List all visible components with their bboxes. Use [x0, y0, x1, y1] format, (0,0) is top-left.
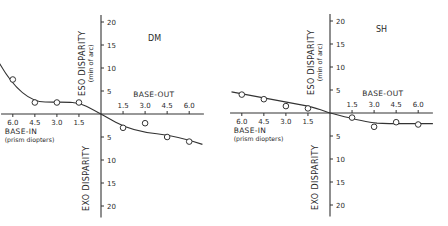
x-tick-label: 6.0 — [7, 119, 18, 127]
y-tick-label: 5 — [336, 133, 340, 141]
y-label-eso: ESO DISPARITY — [307, 30, 316, 95]
data-point — [186, 139, 192, 145]
y-label-units: (min of arc) — [87, 44, 95, 82]
y-tick-label: 10 — [336, 156, 345, 164]
data-point — [10, 77, 16, 83]
data-point — [415, 122, 421, 128]
data-point — [54, 100, 60, 106]
x-tick-label: 6.0 — [184, 102, 195, 110]
y-tick-label: 20 — [336, 18, 345, 26]
x-label-base-out: BASE-OUT — [133, 90, 174, 99]
x-tick-label: 6.0 — [413, 101, 424, 109]
x-tick-label: 3.0 — [280, 118, 291, 126]
y-tick-label: 15 — [107, 180, 116, 188]
chart-panel-sh: 510152051015206.04.53.01.51.53.04.56.0BA… — [230, 14, 433, 216]
y-tick-label: 15 — [336, 179, 345, 187]
prism-disparity-charts: 510152051015206.04.53.01.51.53.04.56.0BA… — [0, 0, 448, 226]
x-tick-label: 4.5 — [258, 118, 269, 126]
y-tick-label: 10 — [107, 65, 116, 73]
x-tick-label: 1.5 — [302, 118, 313, 126]
data-point — [164, 134, 170, 140]
y-tick-label: 15 — [107, 42, 116, 50]
y-tick-label: 20 — [336, 202, 345, 210]
x-label-base-in: BASE-IN — [5, 127, 37, 136]
x-tick-label: 1.5 — [117, 102, 128, 110]
panel-title: DM — [148, 34, 161, 43]
x-tick-label: 6.0 — [236, 118, 247, 126]
y-label-units: (min of arc) — [316, 43, 324, 81]
y-tick-label: 20 — [107, 203, 116, 211]
y-tick-label: 5 — [107, 88, 111, 96]
x-tick-label: 1.5 — [73, 119, 84, 127]
x-label-units: (prism diopters) — [5, 136, 55, 144]
x-tick-label: 3.0 — [140, 102, 151, 110]
y-tick-label: 20 — [107, 19, 116, 27]
y-tick-label: 5 — [107, 134, 111, 142]
y-label-exo: EXO DISPARITY — [82, 146, 91, 211]
data-point — [142, 120, 148, 126]
x-tick-label: 3.0 — [369, 101, 380, 109]
x-tick-label: 4.5 — [391, 101, 402, 109]
data-point — [283, 103, 289, 109]
x-tick-label: 4.5 — [162, 102, 173, 110]
data-point — [261, 96, 267, 102]
panel-title: SH — [376, 25, 387, 34]
y-tick-label: 10 — [107, 157, 116, 165]
x-tick-label: 1.5 — [346, 101, 357, 109]
x-label-base-in: BASE-IN — [234, 126, 266, 135]
data-point — [349, 115, 355, 121]
chart-panel-dm: 510152051015206.04.53.01.51.53.04.56.0BA… — [0, 15, 204, 217]
x-tick-label: 4.5 — [29, 119, 40, 127]
y-label-exo: EXO DISPARITY — [311, 145, 320, 210]
data-point — [120, 125, 126, 131]
data-point — [32, 100, 38, 106]
y-label-eso: ESO DISPARITY — [78, 31, 87, 96]
y-tick-label: 5 — [336, 87, 340, 95]
x-label-base-out: BASE-OUT — [362, 89, 403, 98]
data-point — [239, 92, 245, 98]
y-tick-label: 10 — [336, 64, 345, 72]
data-point — [393, 119, 399, 125]
x-tick-label: 3.0 — [51, 119, 62, 127]
data-point — [305, 106, 311, 112]
y-tick-label: 15 — [336, 41, 345, 49]
x-label-units: (prism diopters) — [234, 135, 284, 143]
data-point — [76, 100, 82, 106]
data-point — [371, 124, 377, 130]
